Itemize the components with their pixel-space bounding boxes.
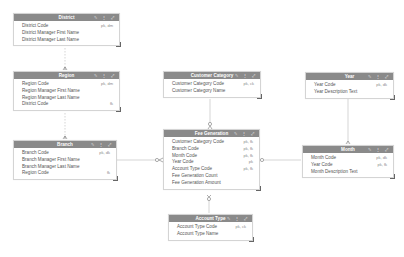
attribute-row[interactable]: Region Codefk (14, 170, 116, 177)
attribute-key: pk, fk (243, 139, 253, 146)
resize-handle-icon[interactable] (390, 95, 395, 100)
attribute-name: Region Code (22, 81, 49, 88)
attribute-row[interactable]: Branch Codepk, fk (164, 146, 259, 153)
attribute-name: Year Code (172, 159, 194, 166)
entity-month[interactable]: Month ✎ ⋮ ⤢ Month Codepk, dk Year Codepk… (302, 145, 394, 178)
attribute-key: pk, dm (101, 81, 113, 88)
attribute-key: pk, ck (244, 81, 254, 88)
resize-handle-icon[interactable] (390, 174, 395, 179)
entity-header[interactable]: Year ✎ ⋮ ⤢ (306, 73, 393, 80)
attribute-key: pk, fk (243, 146, 253, 153)
entity-district[interactable]: District ✎ ⋮ ⤢ District Codepk, dm Distr… (13, 13, 120, 46)
entity-header[interactable]: Fee Generation ✎ ⋮ ⤢ (164, 130, 259, 137)
attribute-name: Customer Category Code (172, 81, 224, 88)
entity-year[interactable]: Year ✎ ⋮ ⤢ Year Codepk, dk Year Descript… (305, 72, 394, 99)
attribute-key: pk, dk (376, 155, 387, 162)
attribute-name: Month Code (311, 155, 336, 162)
attribute-name: District Code (22, 101, 48, 108)
attribute-row[interactable]: Branch Codepk, dk (14, 150, 116, 157)
attribute-row[interactable]: Region Manager First Name (14, 88, 119, 95)
resize-handle-icon[interactable] (256, 186, 261, 191)
resize-handle-icon[interactable] (257, 94, 262, 99)
attribute-row[interactable]: Region Codepk, dm (14, 81, 119, 88)
attribute-row[interactable]: Year Codepk, fk (303, 162, 393, 169)
attribute-key: pk, fk (243, 153, 253, 160)
attribute-row[interactable]: Customer Category Name (164, 88, 260, 95)
entity-action-icons[interactable]: ✎ ⋮ ⤢ (91, 141, 113, 148)
attribute-name: Region Manager First Name (22, 88, 80, 95)
resize-handle-icon[interactable] (116, 42, 121, 47)
attribute-name: District Manager Last Name (22, 37, 79, 44)
attribute-row[interactable]: Account Type Codepk, fk (164, 166, 259, 173)
entity-action-icons[interactable]: ✎ ⋮ ⤢ (94, 14, 116, 21)
attribute-name: Branch Code (22, 150, 49, 157)
entity-action-icons[interactable]: ✎ ⋮ ⤢ (368, 73, 390, 80)
attribute-name: Branch Code (172, 146, 199, 153)
entity-branch[interactable]: Branch ✎ ⋮ ⤢ Branch Codepk, dk Branch Ma… (13, 140, 117, 180)
attribute-key: pk, fk (243, 166, 253, 173)
entity-header[interactable]: District ✎ ⋮ ⤢ (14, 14, 119, 21)
attribute-row[interactable]: Month Description Text (303, 169, 393, 176)
attribute-row[interactable]: District Manager Last Name (14, 37, 119, 44)
entity-header[interactable]: Account Type ✎ ⋮ ⤢ (169, 215, 252, 222)
entity-action-icons[interactable]: ✎ ⋮ ⤢ (235, 72, 257, 79)
resize-handle-icon[interactable] (116, 107, 121, 112)
attribute-row[interactable]: Branch Manager First Name (14, 157, 116, 164)
entity-action-icons[interactable]: ✎ ⋮ ⤢ (227, 215, 249, 222)
attribute-name: Account Type Name (177, 231, 218, 238)
entity-action-icons[interactable]: ✎ ⋮ ⤢ (368, 146, 390, 153)
entity-title: Branch (57, 142, 73, 147)
attribute-row[interactable]: District Manager First Name (14, 30, 119, 37)
attribute-key: pk, dm (101, 23, 113, 30)
attribute-row[interactable]: Month Codepk, fk (164, 153, 259, 160)
entity-header[interactable]: Customer Category ✎ ⋮ ⤢ (164, 72, 260, 79)
attribute-name: District Manager First Name (22, 30, 79, 37)
entity-account-type[interactable]: Account Type ✎ ⋮ ⤢ Account Type Codepk, … (168, 214, 253, 241)
attribute-row[interactable]: Account Type Name (169, 231, 252, 238)
attribute-row[interactable]: Branch Manager Last Name (14, 164, 116, 171)
attribute-row[interactable]: Customer Category Codepk, ck (164, 81, 260, 88)
attribute-row[interactable]: Region Manager Last Name (14, 95, 119, 102)
attribute-name: Region Code (22, 170, 49, 177)
attribute-row[interactable]: Account Type Codepk, ck (169, 224, 252, 231)
attribute-name: Year Code (314, 82, 336, 89)
entity-action-icons[interactable]: ✎ ⋮ ⤢ (94, 72, 116, 79)
resize-handle-icon[interactable] (113, 176, 118, 181)
attribute-name: Year Description Text (314, 89, 357, 96)
entity-fee-generation[interactable]: Fee Generation ✎ ⋮ ⤢ Customer Category C… (163, 129, 260, 190)
attribute-row[interactable]: Month Codepk, dk (303, 155, 393, 162)
attribute-row[interactable]: Year Codepk (164, 159, 259, 166)
attribute-name: Account Type Code (177, 224, 217, 231)
entity-title: District (59, 15, 75, 20)
attribute-key: pk (249, 159, 253, 166)
entity-header[interactable]: Month ✎ ⋮ ⤢ (303, 146, 393, 153)
entity-title: Region (59, 73, 75, 78)
attribute-key: pk, fk (377, 162, 387, 169)
attribute-name: Fee Generation Count (172, 173, 217, 180)
attribute-name: District Code (22, 23, 48, 30)
attribute-row[interactable]: Year Codepk, dk (306, 82, 393, 89)
attribute-row[interactable]: District Codepk, dm (14, 23, 119, 30)
attribute-key: fk (110, 101, 113, 108)
attribute-name: Account Type Code (172, 166, 212, 173)
attribute-row[interactable]: District Codefk (14, 101, 119, 108)
attribute-row[interactable]: Customer Category Codepk, fk (164, 139, 259, 146)
attribute-key: pk, ck (236, 224, 246, 231)
entity-customer-category[interactable]: Customer Category ✎ ⋮ ⤢ Customer Categor… (163, 71, 261, 98)
entity-action-icons[interactable]: ✎ ⋮ ⤢ (234, 130, 256, 137)
entity-title: Account Type (195, 216, 225, 221)
entity-header[interactable]: Region ✎ ⋮ ⤢ (14, 72, 119, 79)
attribute-name: Region Manager Last Name (22, 95, 79, 102)
attribute-name: Branch Manager Last Name (22, 164, 79, 171)
entity-title: Fee Generation (195, 131, 228, 136)
resize-handle-icon[interactable] (249, 237, 254, 242)
attribute-name: Customer Category Code (172, 139, 224, 146)
entity-region[interactable]: Region ✎ ⋮ ⤢ Region Codepk, dm Region Ma… (13, 71, 120, 111)
attribute-row[interactable]: Fee Generation Count (164, 173, 259, 180)
entity-title: Month (341, 147, 355, 152)
attribute-row[interactable]: Year Description Text (306, 89, 393, 96)
attribute-key: pk, dk (376, 82, 387, 89)
attribute-row[interactable]: Fee Generation Amount (164, 180, 259, 187)
attribute-key: fk (107, 170, 110, 177)
entity-header[interactable]: Branch ✎ ⋮ ⤢ (14, 141, 116, 148)
